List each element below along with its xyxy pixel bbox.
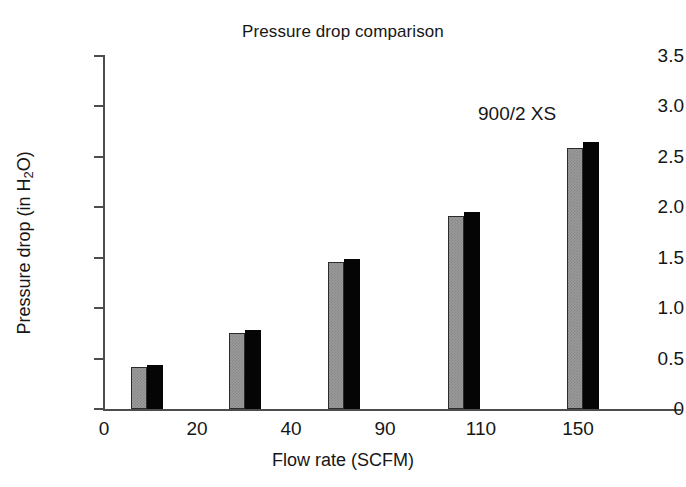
y-axis-tick (94, 55, 103, 57)
y-axis-tick (94, 358, 103, 360)
bar-series-a (229, 333, 245, 409)
x-axis-tick-label: 150 (562, 418, 594, 440)
x-axis-tick-label: 90 (374, 418, 395, 440)
bar-series-a (567, 148, 583, 409)
x-axis-title: Flow rate (SCFM) (103, 450, 583, 471)
chart-title: Pressure drop comparison (0, 22, 686, 42)
bar-series-b (344, 259, 360, 409)
x-axis-tick-label: 110 (466, 418, 496, 440)
x-axis-tick-label: 20 (186, 418, 207, 440)
x-axis-line (103, 409, 681, 411)
y-axis-tick (94, 156, 103, 158)
bar-series-a (328, 262, 344, 409)
bar-series-b (147, 365, 163, 409)
bar-series-a (131, 367, 147, 409)
y-axis-tick (94, 257, 103, 259)
bar-series-b (464, 212, 480, 409)
plot-area (103, 56, 676, 409)
y-axis-tick (94, 206, 103, 208)
x-axis-tick-label: 0 (99, 418, 110, 440)
y-axis-tick (94, 307, 103, 309)
y-axis-tick (94, 408, 103, 410)
x-axis-tick-label: 40 (280, 418, 301, 440)
bar-series-b (245, 330, 261, 409)
y-axis-title: Pressure drop (in H2O) (14, 63, 36, 423)
bar-series-a (448, 216, 464, 409)
chart-figure: Pressure drop comparison 00.51.01.52.02.… (0, 0, 686, 487)
bar-series-b (583, 142, 599, 409)
y-axis-tick (94, 105, 103, 107)
